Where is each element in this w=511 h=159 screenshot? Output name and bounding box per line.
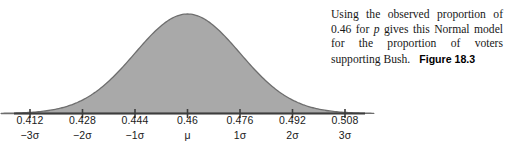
x-axis-label-value-6: 0.508 (313, 113, 377, 128)
figure-caption-text: Using the observed proportion of 0.46 fo… (331, 8, 503, 67)
normal-curve-figure: 0.412−3σ0.428−2σ0.444−1σ0.46μ0.4761σ0.49… (0, 0, 380, 159)
x-axis-labels: 0.412−3σ0.428−2σ0.444−1σ0.46μ0.4761σ0.49… (0, 113, 380, 159)
x-axis-label-sigma-6: 3σ (313, 128, 377, 143)
x-axis-label-6: 0.5083σ (313, 113, 377, 143)
figure-number-label: Figure 18.3 (419, 53, 475, 65)
normal-distribution-chart (0, 0, 380, 120)
figure-caption-block: Using the observed proportion of 0.46 fo… (331, 8, 503, 67)
normal-curve-area (1, 14, 374, 114)
